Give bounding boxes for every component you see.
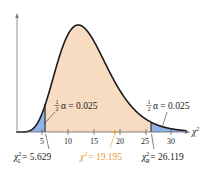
svg-text:1: 1 (56, 99, 59, 105)
svg-text:1: 1 (148, 99, 151, 105)
left-critical-leader (46, 134, 50, 149)
tick-label-15: 15 (90, 137, 98, 146)
x-axis-arrow-icon (185, 130, 190, 134)
tick-label-30: 30 (167, 137, 175, 146)
left-alpha-annotation: 1 2 α = 0.025 (55, 99, 98, 112)
chi-stat-label: χ2= 19.195 (79, 151, 122, 162)
tick-label-20: 20 (116, 137, 124, 146)
svg-text:α = 0.025: α = 0.025 (153, 101, 190, 111)
right-alpha-annotation: 1 2 α = 0.025 (147, 99, 190, 112)
y-axis-arrow-icon (15, 13, 19, 18)
test-statistic-leader (110, 133, 115, 148)
right-alpha-leader (162, 112, 167, 128)
chi-left-label: χ2L= 5.629 (13, 151, 51, 164)
x-axis-label: χ2 (191, 126, 199, 137)
svg-text:2: 2 (56, 106, 59, 112)
chi-square-chart: χ2 5 10 15 20 25 30 1 2 α = 0.025 1 2 α … (0, 0, 213, 180)
tick-label-10: 10 (64, 137, 72, 146)
tick-label-5: 5 (40, 137, 44, 146)
chi-right-label: χ2R= 26.119 (141, 151, 184, 164)
svg-text:α = 0.025: α = 0.025 (61, 101, 98, 111)
right-critical-leader (152, 134, 155, 149)
tick-label-25: 25 (141, 137, 149, 146)
svg-text:2: 2 (148, 106, 151, 112)
